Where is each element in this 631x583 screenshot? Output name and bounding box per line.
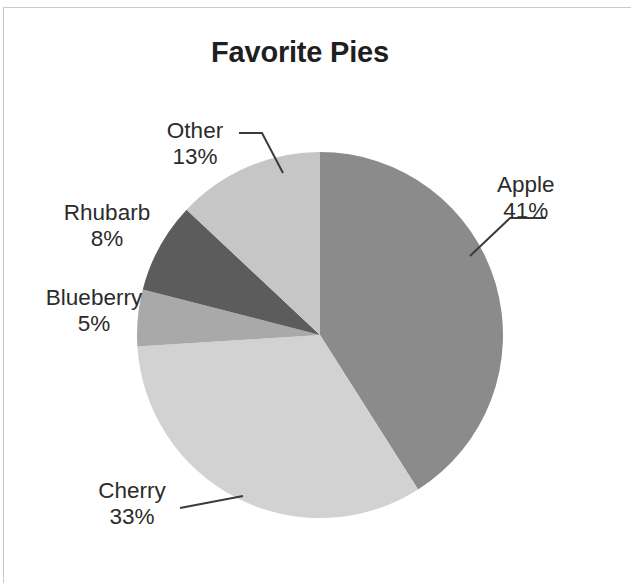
pie-label-cherry-value: 33% [72,504,192,530]
pie-label-rhubarb-value: 8% [42,226,172,252]
pie-label-other-value: 13% [140,144,250,170]
pie-label-rhubarb: Rhubarb 8% [42,200,172,251]
pie-label-other: Other 13% [140,118,250,169]
pie-label-rhubarb-name: Rhubarb [42,200,172,226]
pie-label-apple-value: 41% [497,198,555,224]
pie-label-blueberry-value: 5% [14,311,174,337]
pie-chart-figure: Favorite Pies Apple 41% Other 13% Rhubar… [0,0,631,583]
pie-label-cherry: Cherry 33% [72,478,192,529]
pie-label-blueberry: Blueberry 5% [14,285,174,336]
pie-label-blueberry-name: Blueberry [14,285,174,311]
pie-label-apple: Apple 41% [497,172,555,223]
pie-label-other-name: Other [140,118,250,144]
pie-label-apple-name: Apple [497,172,555,198]
pie-label-cherry-name: Cherry [72,478,192,504]
